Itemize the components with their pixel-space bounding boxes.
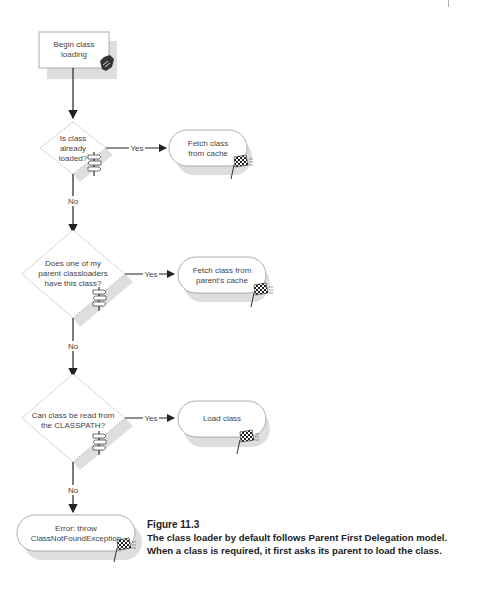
decision-2-yes-label: Yes (144, 270, 157, 279)
decision-1-yes-label: Yes (130, 144, 143, 153)
decision-2-label-2: parent classloaders (38, 269, 107, 278)
decision-1-label-1: Is class (60, 134, 87, 143)
decision-3-yes-label: Yes (144, 414, 157, 423)
decision-1-no-label: No (68, 197, 79, 206)
decision-2-no-label: No (68, 342, 79, 351)
decision-node-1: Is class already loaded? (40, 122, 113, 182)
decision-1-label-3: loaded? (59, 154, 88, 163)
decision-1-label-2: already (60, 144, 86, 153)
terminal-1-label-2: from cache (188, 149, 228, 158)
terminal-node-2: Fetch class from parent's cache (178, 257, 273, 307)
decision-3-label-2: the CLASSPATH? (41, 421, 106, 430)
figure-caption: Figure 11.3 The class loader by default … (147, 518, 487, 557)
flowchart: Begin class loading Is class already loa… (0, 0, 489, 589)
decision-3-label-1: Can class be read from (32, 411, 115, 420)
decision-2-label-3: have this class? (45, 279, 102, 288)
caption-line-1: The class loader by default follows Pare… (147, 531, 487, 544)
terminal-node-1: Fetch class from cache (169, 130, 253, 179)
terminal-4-label-1: Error: throw (55, 524, 97, 533)
decision-node-2: Does one of my parent classloaders have … (22, 230, 133, 327)
start-node: Begin class loading (39, 32, 117, 79)
figure-number: Figure 11.3 (147, 518, 487, 531)
terminal-4-label-2: ClassNotFoundException (31, 534, 121, 543)
terminal-node-4: Error: throw ClassNotFoundException (17, 515, 142, 562)
decision-3-no-label: No (68, 486, 79, 495)
decision-node-3: Can class be read from the CLASSPATH? (22, 374, 133, 470)
terminal-2-label-1: Fetch class from (193, 266, 252, 275)
terminal-1-label-1: Fetch class (188, 139, 228, 148)
decision-2-label-1: Does one of my (45, 259, 101, 268)
terminal-node-3: Load class (178, 401, 270, 454)
start-label-2: loading (61, 50, 87, 59)
start-label-1: Begin class (54, 40, 95, 49)
terminal-3-label-1: Load class (203, 414, 241, 423)
caption-line-2: When a class is required, it first asks … (147, 544, 487, 557)
terminal-2-label-2: parent's cache (196, 276, 248, 285)
